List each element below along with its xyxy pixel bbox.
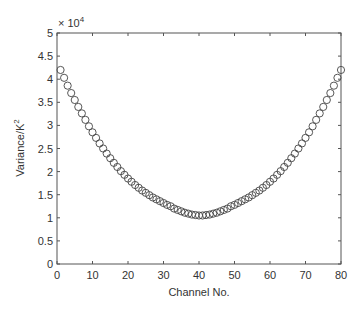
data-point: [96, 140, 103, 147]
data-point: [82, 116, 89, 123]
data-point: [71, 96, 78, 103]
y-tick-label: 1.5: [38, 189, 53, 201]
x-tick-label: 30: [157, 269, 169, 281]
x-tick-label: 80: [335, 269, 347, 281]
y-tick-label: 1: [47, 212, 53, 224]
data-point: [288, 155, 295, 162]
y-tick-label: 4: [47, 73, 53, 85]
data-point: [61, 74, 68, 81]
data-point: [100, 145, 107, 152]
data-point: [323, 96, 330, 103]
y-tick-label: 5: [47, 27, 53, 39]
data-point: [78, 110, 85, 117]
x-tick-label: 0: [54, 269, 60, 281]
data-point: [103, 150, 110, 157]
y-tick-label: 3.5: [38, 96, 53, 108]
data-point: [334, 74, 341, 81]
data-point: [64, 82, 71, 89]
data-point: [107, 155, 114, 162]
data-point: [330, 82, 337, 89]
data-markers: [57, 66, 345, 219]
data-point: [295, 145, 302, 152]
x-tick-label: 60: [264, 269, 276, 281]
y-tick-label: 3: [47, 119, 53, 131]
data-point: [57, 66, 64, 73]
data-point: [309, 123, 316, 130]
y-multiplier: × 104: [58, 15, 85, 29]
x-axis-label: Channel No.: [168, 286, 229, 298]
y-axis-label: Variance/K2: [12, 119, 26, 177]
data-point: [313, 116, 320, 123]
data-point: [327, 89, 334, 96]
x-tick-label: 20: [122, 269, 134, 281]
scatter-chart: 0102030405060708000.511.522.533.544.55 ×…: [0, 0, 364, 309]
x-tick-label: 50: [228, 269, 240, 281]
x-tick-label: 70: [299, 269, 311, 281]
y-tick-label: 4.5: [38, 50, 53, 62]
y-tick-label: 0: [47, 258, 53, 270]
x-tick-label: 40: [193, 269, 205, 281]
data-point: [68, 89, 75, 96]
x-tick-label: 10: [86, 269, 98, 281]
data-point: [320, 103, 327, 110]
y-tick-label: 0.5: [38, 235, 53, 247]
y-tick-label: 2.5: [38, 143, 53, 155]
y-tick-label: 2: [47, 166, 53, 178]
data-point: [316, 110, 323, 117]
axes: 0102030405060708000.511.522.533.544.55: [38, 27, 347, 281]
data-point: [75, 103, 82, 110]
data-point: [291, 150, 298, 157]
